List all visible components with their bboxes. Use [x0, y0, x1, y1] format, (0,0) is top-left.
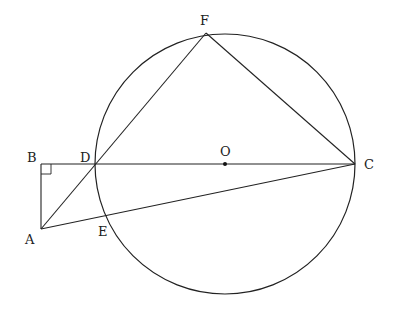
right-angle-mark — [41, 164, 51, 174]
label-a: A — [25, 233, 34, 246]
label-c: C — [364, 158, 374, 171]
center-dot — [223, 162, 227, 166]
label-b: B — [27, 151, 37, 164]
label-d: D — [80, 151, 90, 164]
label-e: E — [98, 225, 108, 238]
diagram-canvas — [0, 0, 395, 314]
label-o: O — [220, 145, 231, 158]
label-f: F — [200, 14, 209, 27]
geometry-diagram: B D O C F A E — [0, 0, 395, 314]
